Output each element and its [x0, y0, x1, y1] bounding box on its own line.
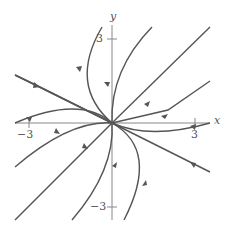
- y-tick-pos-label: 3: [96, 32, 103, 45]
- phase-portrait: y x 3 −3 −3 3: [0, 0, 241, 235]
- x-tick-neg-label: −3: [17, 128, 33, 141]
- phase-plot: [0, 0, 241, 235]
- arrows: [26, 66, 196, 186]
- y-tick-neg-label: −3: [90, 200, 106, 213]
- y-axis-label: y: [110, 10, 116, 23]
- x-tick-pos-label: 3: [191, 128, 198, 141]
- x-axis-label: x: [214, 114, 220, 127]
